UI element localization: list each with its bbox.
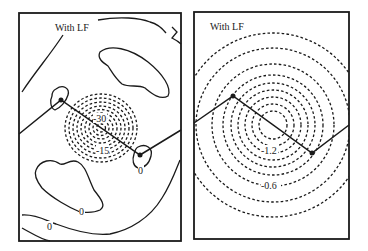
contour-bottom <box>22 160 180 234</box>
contour-bottom-left <box>22 228 50 241</box>
contour-top-right-edge <box>172 27 181 44</box>
right-panel-title: With LF <box>210 21 244 32</box>
contour-label-outer-right: -0.6 <box>261 180 277 191</box>
zero-label-bottom: 0 <box>47 221 52 232</box>
contour-lower-closed <box>35 161 103 213</box>
figure: With LF -30 -15 0 0 0 With LF <box>0 0 368 251</box>
endpoint-right-a <box>231 94 236 99</box>
left-panel: With LF -30 -15 0 0 0 <box>19 13 181 241</box>
left-panel-title: With LF <box>55 22 89 33</box>
endpoint-left-b <box>138 153 143 158</box>
endpoint-left-a <box>59 98 64 103</box>
zero-label-endpoint: 0 <box>138 165 143 176</box>
contour-label-outer: -15 <box>96 145 109 156</box>
contour-top <box>98 18 166 33</box>
right-panel: With LF -1.2 -0.6 <box>181 12 365 239</box>
right-panel-frame <box>194 12 349 239</box>
contour-top-left <box>22 35 63 92</box>
zero-label-lower-closed: 0 <box>79 206 84 217</box>
contour-label-inner-right: -1.2 <box>261 145 277 156</box>
contour-upper-closed <box>99 48 169 98</box>
contour-label-inner: -30 <box>93 113 106 124</box>
endpoint-right-b <box>310 151 315 156</box>
